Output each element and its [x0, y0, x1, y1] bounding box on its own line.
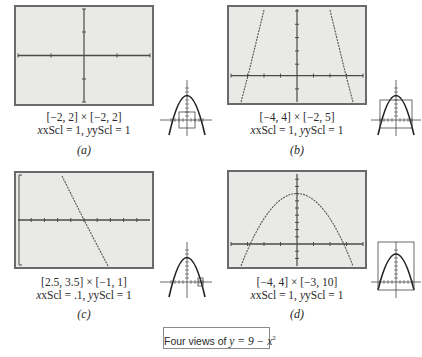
graph-b-plot	[229, 7, 365, 103]
yscl-b: yScl = 1	[305, 124, 343, 136]
figure-title-exponent: 2	[272, 334, 276, 342]
yscl-c: yScl = 1	[93, 289, 131, 301]
graph-c-plot	[16, 173, 152, 267]
graph-d-plot	[229, 172, 365, 267]
panel-label-c: (c)	[14, 307, 154, 322]
scale-label-c: xxScl = .1, yyScl = 1	[14, 289, 154, 302]
scale-label-d: xxScl = 1, yyScl = 1	[227, 289, 367, 302]
scale-label-a: xxScl = 1, yyScl = 1	[14, 124, 154, 137]
xscl-c: xScl = .1,	[41, 289, 88, 301]
graph-screen-c	[14, 171, 154, 269]
xscl-a: xScl = 1,	[43, 124, 87, 136]
graph-screen-b	[227, 5, 367, 105]
panel-label-d: (d)	[227, 307, 367, 322]
yscl-a: yScl = 1	[92, 124, 130, 136]
window-label-c: [2.5, 3.5] × [−1, 1]	[14, 276, 154, 289]
yscl-d: yScl = 1	[305, 289, 343, 301]
inset-overview-a	[158, 76, 214, 136]
figure-title: Four views of y = 9 − x2	[163, 327, 270, 349]
scale-label-b: xxScl = 1, yyScl = 1	[227, 124, 367, 137]
graph-screen-a	[14, 5, 154, 106]
panel-label-a: (a)	[14, 143, 154, 158]
xscl-d: xScl = 1,	[256, 289, 300, 301]
window-label-b: [−4, 4] × [−2, 5]	[227, 111, 367, 124]
graph-screen-d	[227, 170, 367, 269]
inset-overview-d	[369, 238, 422, 298]
figure-title-equation: y = 9 − x	[229, 335, 272, 347]
inset-overview-b	[369, 76, 422, 136]
graph-a-plot	[16, 7, 152, 104]
window-label-d: [−4, 4] × [−3, 10]	[227, 276, 367, 289]
inset-overview-c	[158, 238, 214, 298]
figure-title-prefix: Four views of	[164, 335, 229, 347]
window-label-a: [−2, 2] × [−2, 2]	[14, 111, 154, 124]
xscl-b: xScl = 1,	[256, 124, 300, 136]
panel-label-b: (b)	[227, 143, 367, 158]
